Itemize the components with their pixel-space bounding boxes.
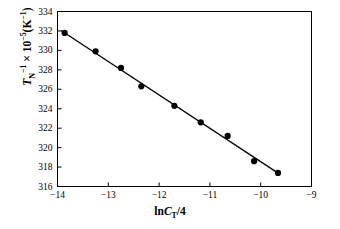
plot-canvas: [0, 0, 340, 229]
data-point: [118, 65, 124, 71]
data-point: [171, 103, 177, 109]
data-point: [62, 30, 68, 36]
data-point: [198, 119, 204, 125]
data-point: [225, 133, 231, 139]
tick-marks: [58, 31, 261, 187]
figure-container: TN−1 × 10−5(K−1) lnCT/4 3163183203223243…: [0, 0, 340, 229]
plot-frame: [58, 12, 312, 187]
data-point: [93, 48, 99, 54]
data-point: [275, 170, 281, 176]
data-point: [251, 158, 257, 164]
data-point: [138, 83, 144, 89]
